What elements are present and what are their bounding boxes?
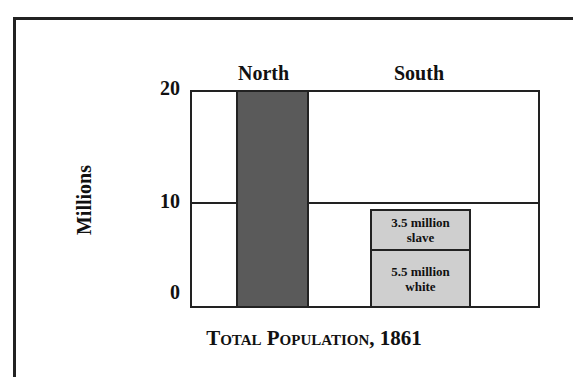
y-tick-20: 20 (140, 77, 180, 100)
y-tick-0: 0 (140, 281, 180, 304)
white-label-amount: 5.5 million (391, 264, 450, 279)
y-tick-10: 10 (140, 190, 180, 213)
category-label-south: South (394, 62, 444, 85)
white-label-type: white (405, 279, 435, 294)
bar-south-slave: 3.5 millionslave (370, 209, 471, 251)
y-axis-label: Millions (73, 165, 96, 235)
slave-label-type: slave (407, 230, 434, 245)
bar-north (236, 90, 309, 308)
slave-label-amount: 3.5 million (391, 215, 450, 230)
chart-title: Total Population, 1861 (128, 326, 500, 351)
category-label-north: North (238, 62, 289, 85)
bar-south-white: 5.5 millionwhite (370, 249, 471, 308)
